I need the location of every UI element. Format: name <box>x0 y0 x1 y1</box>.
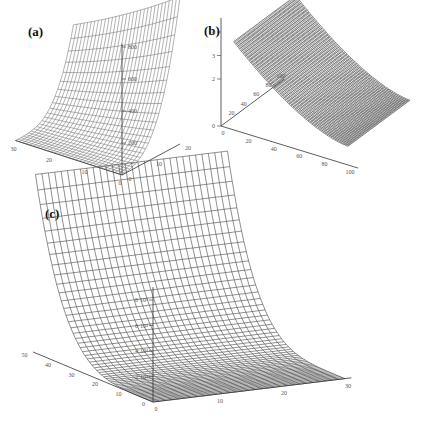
svg-text:200: 200 <box>128 140 137 146</box>
svg-text:0: 0 <box>155 406 158 412</box>
surface-plot-c: 0102030010203040502·10⁴4·10⁴6·10⁴8·10⁴ <box>0 200 422 439</box>
svg-text:20: 20 <box>281 390 287 396</box>
svg-text:4·10⁴: 4·10⁴ <box>135 348 148 354</box>
svg-text:10: 10 <box>116 391 122 397</box>
svg-text:20: 20 <box>46 157 52 163</box>
svg-text:2: 2 <box>212 76 215 82</box>
figure-panel-c: (c) 0102030010203040502·10⁴4·10⁴6·10⁴8·1… <box>0 200 422 439</box>
svg-text:10: 10 <box>156 161 162 167</box>
svg-text:20: 20 <box>185 145 191 151</box>
svg-text:2·10⁴: 2·10⁴ <box>135 374 148 380</box>
svg-text:20: 20 <box>228 110 234 116</box>
svg-text:100: 100 <box>277 73 286 79</box>
surface-plot-b: 020406080100204060801000234 <box>210 0 422 200</box>
svg-text:60: 60 <box>296 153 302 159</box>
svg-text:30: 30 <box>69 372 75 378</box>
svg-text:8·10⁴: 8·10⁴ <box>135 297 148 303</box>
svg-text:60: 60 <box>253 91 259 97</box>
svg-text:30: 30 <box>345 383 351 389</box>
svg-text:4: 4 <box>212 29 215 35</box>
svg-text:20: 20 <box>245 138 251 144</box>
svg-text:30: 30 <box>11 146 17 152</box>
svg-text:100: 100 <box>346 169 355 175</box>
svg-text:20: 20 <box>92 381 98 387</box>
svg-text:40: 40 <box>271 146 277 152</box>
svg-text:400: 400 <box>128 108 137 114</box>
svg-text:50: 50 <box>22 352 28 358</box>
figure-panel-b: (b) 020406080100204060801000234 <box>210 0 422 200</box>
svg-text:80: 80 <box>322 161 328 167</box>
svg-text:10: 10 <box>217 398 223 404</box>
svg-text:40: 40 <box>45 362 51 368</box>
svg-text:6·10⁴: 6·10⁴ <box>135 323 148 329</box>
svg-text:80: 80 <box>266 82 272 88</box>
svg-text:0: 0 <box>142 401 145 407</box>
svg-text:3: 3 <box>212 53 215 59</box>
svg-text:0: 0 <box>222 130 225 136</box>
svg-text:800: 800 <box>128 44 137 50</box>
svg-text:600: 600 <box>128 76 137 82</box>
svg-text:40: 40 <box>241 101 247 107</box>
svg-text:0: 0 <box>212 123 215 129</box>
